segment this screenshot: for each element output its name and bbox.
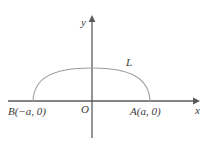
curve-label-l: L [126, 57, 132, 68]
coordinate-diagram: y x O B(−a, 0) A(a, 0) L [0, 0, 208, 143]
diagram-canvas [0, 0, 208, 143]
y-axis-arrow-icon [89, 15, 96, 22]
point-label-a: A(a, 0) [130, 106, 161, 117]
x-axis-label: x [195, 105, 200, 116]
point-label-b: B(−a, 0) [8, 106, 46, 117]
y-axis-label: y [81, 17, 86, 28]
origin-label: O [81, 104, 89, 115]
